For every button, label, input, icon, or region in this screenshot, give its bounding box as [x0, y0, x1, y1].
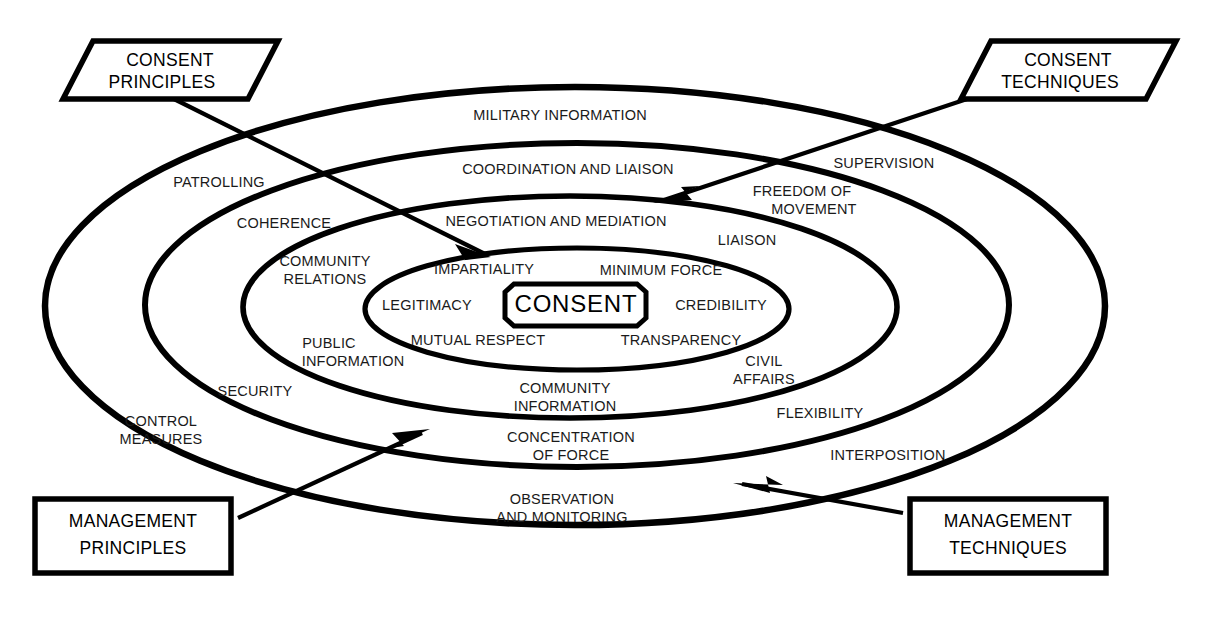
ring-label-community-relations-line2: RELATIONS: [284, 271, 367, 287]
ring-label-patrolling: PATROLLING: [173, 174, 265, 190]
ring-label-concentration-line1: CONCENTRATION: [507, 429, 635, 445]
ring-label-community-relations-line1: COMMUNITY: [279, 253, 370, 269]
ring-label-impartiality: IMPARTIALITY: [434, 261, 534, 277]
ring-label-observation-line2: AND MONITORING: [496, 509, 627, 525]
callout-management-techniques-line2: TECHNIQUES: [949, 538, 1067, 558]
ring-label-concentration-line2: OF FORCE: [533, 447, 610, 463]
callout-consent-principles-line2: PRINCIPLES: [108, 72, 215, 92]
ring-label-legitimacy: LEGITIMACY: [382, 297, 472, 313]
ring-label-military-information: MILITARY INFORMATION: [473, 107, 647, 123]
consent-core-label: CONSENT: [515, 290, 638, 317]
ring-label-transparency: TRANSPARENCY: [621, 332, 742, 348]
callout-management-principles-line2: PRINCIPLES: [79, 538, 186, 558]
ring-label-liaison: LIAISON: [718, 232, 777, 248]
ring-label-control-measures-line2: MEASURES: [120, 431, 203, 447]
ring-label-supervision: SUPERVISION: [833, 155, 934, 171]
ring-label-community-information-line1: COMMUNITY: [519, 380, 610, 396]
ring-label-community-information-line2: INFORMATION: [514, 398, 617, 414]
ring-label-mutual-respect: MUTUAL RESPECT: [411, 332, 545, 348]
callout-management-principles-line1: MANAGEMENT: [69, 511, 197, 531]
callout-consent-principles-line1: CONSENT: [126, 50, 214, 70]
ring-label-freedom-line1: FREEDOM OF: [753, 183, 852, 199]
callout-consent-techniques-line1: CONSENT: [1024, 50, 1112, 70]
diagram-canvas: CONSENT PRINCIPLES CONSENT TECHNIQUES MA…: [0, 0, 1211, 618]
arrowhead-management-principles: [385, 429, 430, 449]
ring-label-public-information-line1: PUBLIC: [302, 335, 356, 351]
consent-rings-diagram: CONSENT PRINCIPLES CONSENT TECHNIQUES MA…: [0, 0, 1211, 618]
ring-label-negotiation-and-mediation: NEGOTIATION AND MEDIATION: [445, 213, 666, 229]
callout-management-techniques-line1: MANAGEMENT: [944, 511, 1072, 531]
ring-label-civil-affairs-line1: CIVIL: [745, 353, 782, 369]
ring-label-security: SECURITY: [218, 383, 293, 399]
ring-label-minimum-force: MINIMUM FORCE: [600, 262, 723, 278]
ring-label-credibility: CREDIBILITY: [675, 297, 767, 313]
ring-label-civil-affairs-line2: AFFAIRS: [733, 371, 795, 387]
ring-label-freedom-line2: MOVEMENT: [771, 201, 856, 217]
ring-label-observation-line1: OBSERVATION: [510, 491, 615, 507]
ring-label-control-measures-line1: CONTROL: [125, 413, 197, 429]
ring-label-flexibility: FLEXIBILITY: [777, 405, 864, 421]
ring-label-coherence: COHERENCE: [237, 215, 332, 231]
callout-consent-techniques-line2: TECHNIQUES: [1001, 72, 1119, 92]
ring-label-public-information-line2: INFORMATION: [302, 353, 405, 369]
ring-label-interposition: INTERPOSITION: [830, 447, 945, 463]
ring-label-coordination-and-liaison: COORDINATION AND LIAISON: [462, 161, 674, 177]
